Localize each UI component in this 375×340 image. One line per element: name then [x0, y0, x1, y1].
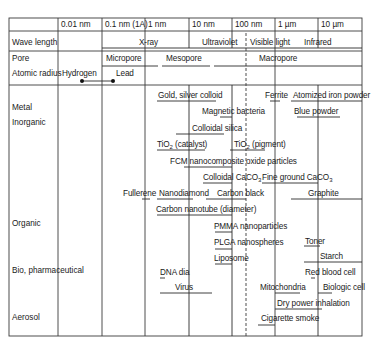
label-infrared: Infrared: [304, 38, 331, 48]
label-micropore: Micropore: [106, 54, 142, 64]
label-liposome: Liposome: [214, 254, 249, 264]
header-col-0.1nm: 0.1 nm (1A): [105, 20, 148, 30]
row-label-atomic-radius: Atomic radius: [12, 69, 62, 79]
label-ferrite: Ferrite: [265, 91, 288, 101]
label-dna-dia: DNA dia: [160, 268, 189, 278]
row-label-inorganic: Inorganic: [12, 118, 46, 128]
label-colloidal-caco3: Colloidal CaCO3: [203, 173, 261, 183]
row-label-organic: Organic: [12, 219, 41, 229]
label-fine-ground-caco3: Fine ground CaCO3: [262, 173, 332, 183]
label-colloidal-silica: Colloidal silica: [192, 124, 242, 134]
label-ultraviolet: Ultraviolet: [202, 38, 237, 48]
label-red-blood-cell: Red blood cell: [305, 268, 356, 278]
hydrogen-dot: [80, 79, 84, 83]
label-nanodiamond: Nanodiamond: [159, 189, 209, 199]
label-dry-power-inhalation: Dry power inhalation: [277, 299, 350, 309]
row-label-bio-pharmaceutical: Bio, pharmaceutical: [12, 266, 84, 276]
label-mesopore: Mesopore: [166, 54, 202, 64]
label-tio2-pigment: TiO2 (pigment): [234, 140, 286, 150]
header-col-1um: 1 µm: [278, 20, 296, 30]
label-magnetic-bacteria: Magnetic bacteria: [202, 107, 265, 117]
header-col-100nm: 100 nm: [235, 20, 262, 30]
header-col-10um: 10 µm: [321, 20, 344, 30]
label-pmma-nanoparticles: PMMA nanoparticles: [214, 222, 287, 232]
row-label-wave-length: Wave length: [12, 38, 57, 48]
label-plga-nanospheres: PLGA nanospheres: [214, 238, 283, 248]
label-fullerene: Fullerene: [123, 189, 156, 199]
label-atomized-iron-powder: Atomized iron powder: [293, 91, 370, 101]
label-virus: Virus: [175, 283, 193, 293]
label-hydrogen: Hydrogen: [62, 69, 97, 79]
label-xray: X-ray: [139, 38, 158, 48]
label-mitochondria: Mitochondria: [260, 283, 306, 293]
label-biologic-cell: Biologic cell: [323, 283, 365, 293]
row-label-metal: Metal: [12, 103, 32, 113]
label-graphite: Graphite: [308, 189, 339, 199]
label-macropore: Macropore: [259, 54, 297, 64]
row-label-pore: Pore: [12, 54, 29, 64]
label-toner: Toner: [305, 237, 325, 247]
label-fcm-nanocomposite: FCM nanocomposite oxide particles: [170, 157, 297, 167]
label-lead: Lead: [116, 69, 134, 79]
header-col-1nm: 1 nm: [148, 20, 166, 30]
row-label-aerosol: Aerosol: [12, 313, 40, 323]
label-carbon-black: Carbon black: [217, 189, 264, 199]
label-blue-powder: Blue powder: [294, 107, 338, 117]
label-cigarette-smoke: Cigarette smoke: [261, 314, 319, 324]
header-col-10nm: 10 nm: [192, 20, 215, 30]
header-col-0.01nm: 0.01 nm: [61, 20, 91, 30]
label-starch: Starch: [320, 252, 343, 262]
label-visible-light: Visible light: [250, 38, 290, 48]
lead-dot: [111, 79, 115, 83]
label-carbon-nanotube: Carbon nanotube (diameter): [156, 205, 256, 215]
label-gold-silver-colloid: Gold, silver colloid: [158, 91, 222, 101]
label-tio2-catalyst: TiO2 (catalyst): [157, 140, 207, 150]
